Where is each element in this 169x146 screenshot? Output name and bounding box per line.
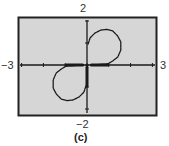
plot-area xyxy=(0,0,169,146)
